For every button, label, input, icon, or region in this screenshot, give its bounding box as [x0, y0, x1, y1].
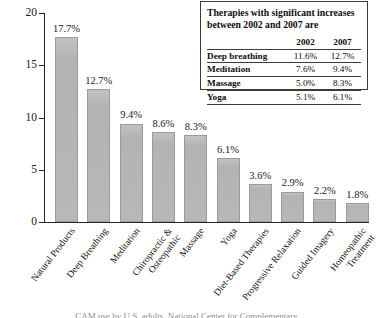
bar-value-label: 6.1% [217, 145, 239, 156]
info-box-title: Therapies with significant increases bet… [207, 7, 361, 31]
category-label-line: Meditation [107, 225, 142, 265]
info-box-col-2002: 2002 [287, 33, 324, 49]
info-box-value-2002: 5.0% [287, 77, 324, 91]
x-axis-category-label: Progressive Relaxation [241, 226, 304, 303]
info-box-header-row: 2002 2007 [207, 33, 361, 49]
bar-value-label: 12.7% [85, 76, 112, 87]
significant-increases-info-box: Therapies with significant increases bet… [200, 1, 368, 90]
bar[interactable] [120, 124, 143, 222]
category-label-line: Progressive Relaxation [240, 225, 303, 302]
bar-value-label: 8.3% [185, 122, 207, 133]
y-axis-tick-label: 5 [31, 164, 37, 176]
bar[interactable] [249, 184, 272, 222]
info-box-col-2007: 2007 [324, 33, 361, 49]
info-box-therapy-name: Yoga [207, 91, 287, 105]
info-box-row: Deep breathing11.6%12.7% [207, 49, 361, 63]
category-label-line: Massage [177, 225, 206, 258]
bar-value-label: 9.4% [120, 110, 142, 121]
info-box-therapy-name: Deep breathing [207, 49, 287, 63]
x-axis-category-label: HomeopathicTreatment [328, 226, 377, 280]
info-box-value-2002: 5.1% [287, 91, 324, 105]
x-axis-category-labels: Natural ProductsDeep BreathingMeditation… [44, 222, 369, 318]
info-box-value-2002: 7.6% [287, 63, 324, 77]
source-caption: CAM use by U.S. adults, National Center … [0, 311, 373, 318]
bar[interactable] [184, 135, 207, 222]
info-box-row: Yoga5.1%6.1% [207, 91, 361, 105]
x-axis-category-label: Massage [178, 226, 207, 259]
bar-value-label: 3.6% [249, 171, 271, 182]
info-box-value-2007: 9.4% [324, 63, 361, 77]
bar[interactable] [281, 192, 304, 222]
info-box-table-head: 2002 2007 [207, 33, 361, 49]
info-box-value-2007: 6.1% [324, 91, 361, 105]
bar-value-label: 17.7% [53, 24, 80, 35]
bar[interactable] [217, 158, 240, 222]
bar-value-label: 2.2% [314, 186, 336, 197]
bar-value-label: 2.9% [282, 178, 304, 189]
bar[interactable] [87, 89, 110, 222]
category-label-line: Yoga [218, 225, 239, 247]
bar[interactable] [152, 132, 175, 222]
bar-value-label: 8.6% [152, 119, 174, 130]
y-axis-tick-label: 0 [31, 216, 37, 228]
info-box-table-body: Deep breathing11.6%12.7%Meditation7.6%9.… [207, 49, 361, 104]
info-box-value-2007: 8.3% [324, 77, 361, 91]
info-box-therapy-name: Meditation [207, 63, 287, 77]
x-axis-category-label: Yoga [219, 226, 240, 248]
info-box-therapy-name: Massage [207, 77, 287, 91]
y-axis-tick-label: 20 [26, 7, 38, 19]
bar-value-label: 1.8% [346, 190, 368, 201]
y-axis-tick-label: 10 [26, 112, 38, 124]
bar[interactable] [313, 199, 336, 222]
bar[interactable] [55, 37, 78, 222]
bar[interactable] [346, 203, 369, 222]
y-axis-tick-label: 15 [26, 60, 38, 72]
info-box-value-2002: 11.6% [287, 49, 324, 63]
info-box-row: Meditation7.6%9.4% [207, 63, 361, 77]
info-box-row: Massage5.0%8.3% [207, 77, 361, 91]
info-box-col-therapy [207, 33, 287, 49]
info-box-value-2007: 12.7% [324, 49, 361, 63]
info-box-table: 2002 2007 Deep breathing11.6%12.7%Medita… [207, 33, 361, 105]
